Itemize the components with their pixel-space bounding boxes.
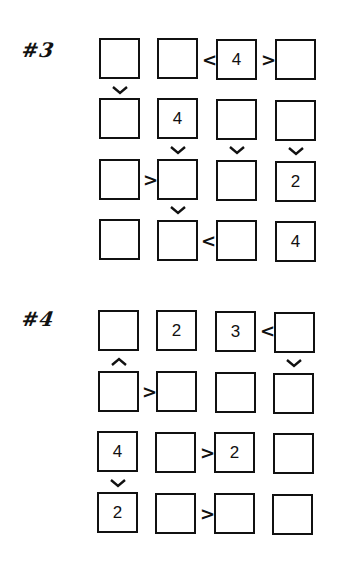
p3-down-chevron-icon-c2-r3r4	[169, 205, 187, 215]
p4-cell-r4c4[interactable]	[272, 494, 313, 535]
p3-cell-r2c1[interactable]	[99, 98, 140, 139]
p4-cell-r2c3[interactable]	[215, 372, 256, 413]
p4-cell-r2c1[interactable]	[98, 371, 139, 412]
p4-greater-than-r2-c1c2: >	[142, 383, 157, 401]
puzzle-4-label: #4	[20, 307, 56, 331]
puzzle-3-label: #3	[20, 38, 56, 62]
p4-cell-r4c3[interactable]	[214, 493, 255, 534]
p4-cell-r1c2[interactable]: 2	[156, 310, 197, 351]
p3-cell-r2c2[interactable]: 4	[157, 98, 198, 139]
p3-cell-r4c4[interactable]: 4	[275, 221, 316, 262]
p4-down-chevron-icon-c1-r3r4	[109, 478, 127, 488]
p3-less-than-r4-c2c3: <	[201, 232, 216, 250]
p3-cell-r4c3[interactable]	[216, 220, 257, 261]
p4-cell-r2c2[interactable]	[156, 371, 197, 412]
p4-down-chevron-icon-c4-r1r2	[285, 358, 303, 368]
p3-down-chevron-icon-c4-r2r3	[287, 146, 305, 156]
p4-greater-than-r3-c2c3: >	[200, 444, 215, 462]
p3-cell-r4c2[interactable]	[157, 220, 198, 261]
p3-cell-r2c4[interactable]	[275, 100, 316, 141]
p4-cell-r3c4[interactable]	[273, 433, 314, 474]
p3-cell-r1c2[interactable]	[157, 38, 198, 79]
p4-cell-r3c1[interactable]: 4	[97, 431, 138, 472]
p4-cell-r1c1[interactable]	[98, 310, 139, 351]
p4-cell-r1c4[interactable]	[274, 312, 315, 353]
p3-cell-r3c4[interactable]: 2	[275, 161, 316, 202]
p4-cell-r3c2[interactable]	[155, 432, 196, 473]
p4-cell-r1c3[interactable]: 3	[215, 311, 256, 352]
p3-down-chevron-icon-c3-r2r3	[228, 145, 246, 155]
p3-cell-r3c3[interactable]	[216, 160, 257, 201]
p3-greater-than-r1-c3c4: >	[261, 51, 276, 69]
p4-cell-r4c2[interactable]	[155, 493, 196, 534]
p3-down-chevron-icon-c2-r2r3	[169, 145, 187, 155]
p3-down-chevron-icon-c1-r1r2	[111, 85, 129, 95]
p3-cell-r4c1[interactable]	[99, 219, 140, 260]
p4-cell-r2c4[interactable]	[273, 373, 314, 414]
p4-cell-r4c1[interactable]: 2	[97, 492, 138, 533]
p3-cell-r2c3[interactable]	[216, 99, 257, 140]
p4-greater-than-r4-c2c3: >	[200, 505, 215, 523]
p3-less-than-r1-c2c3: <	[202, 51, 217, 69]
p3-cell-r1c4[interactable]	[275, 39, 316, 80]
p3-cell-r3c2[interactable]	[157, 159, 198, 200]
p3-cell-r1c3[interactable]: 4	[216, 39, 257, 80]
p3-cell-r3c1[interactable]	[99, 159, 140, 200]
p3-greater-than-r3-c1c2: >	[143, 171, 158, 189]
p4-cell-r3c3[interactable]: 2	[214, 432, 255, 473]
p3-cell-r1c1[interactable]	[99, 38, 140, 79]
p4-less-than-r1-c3c4: <	[260, 322, 275, 340]
p4-up-chevron-icon-c1-r1r2	[110, 357, 128, 367]
